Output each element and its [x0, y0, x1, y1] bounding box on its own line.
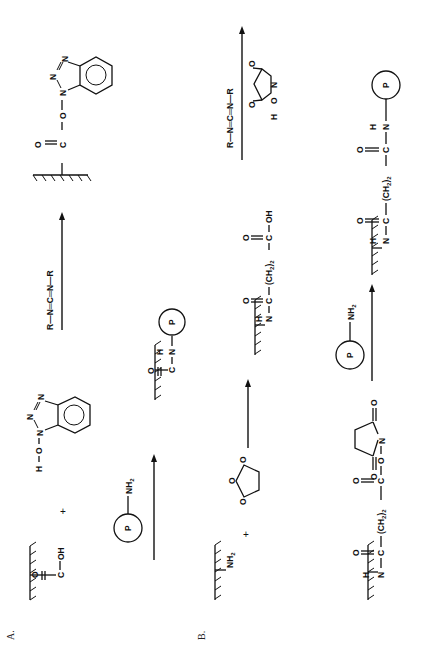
atom-o1: O [351, 549, 361, 556]
reaction-scheme-figure: A. B. C OH O + H [0, 0, 429, 654]
plus-sign: + [60, 506, 66, 517]
surface-hatching-icon [33, 175, 91, 181]
atom-o: O [30, 571, 40, 578]
atom-n2: N [25, 414, 35, 420]
group-ch2-2: (CH2)2 [264, 260, 275, 285]
reaction-scheme-svg: A. B. C OH O + H [0, 0, 429, 654]
arrowhead-icon [151, 454, 157, 462]
surface-carboxylic-acid: C OH O [30, 542, 66, 600]
atom-c: C [167, 367, 177, 373]
surface-hatching-icon [368, 541, 374, 599]
atom-o-left: O [247, 101, 257, 108]
atom-c: C [56, 572, 66, 578]
atom-n2: N [48, 74, 58, 80]
succinic-anhydride: O O O [227, 456, 259, 505]
atom-c2: C [264, 235, 274, 241]
atom-o1: O [355, 217, 365, 224]
panel-a: C OH O + H O N N N P [25, 56, 185, 600]
protein-p: P [381, 82, 391, 88]
atom-o: O [269, 97, 279, 104]
atom-h: H [155, 349, 165, 355]
atom-h: H [34, 466, 44, 472]
protein-amine-reagent: P NH2 [114, 478, 142, 542]
panel-label-b: B. [196, 631, 207, 640]
atom-c1: C [264, 298, 274, 304]
group-ch2-2: (CH2)2 [381, 176, 392, 201]
hobt-molecule: H O N N N [25, 394, 90, 472]
atom-o-link: O [58, 112, 68, 119]
atom-c1: C [376, 550, 386, 556]
benzene-ring-icon [80, 57, 112, 94]
n-hydroxysuccinimide: O O N O H [247, 60, 279, 120]
atom-n: N [264, 316, 274, 322]
atom-o-ring: O [227, 477, 237, 484]
atom-h: H [361, 572, 371, 578]
protein-p: P [167, 319, 177, 325]
arrowhead-icon [59, 212, 65, 220]
atom-n2: N [381, 124, 391, 130]
atom-h2: H [368, 124, 378, 130]
atom-o-right: O [247, 60, 257, 67]
protein-amine-reagent-b: P NH2 [336, 304, 364, 369]
surface-hatching-icon [372, 216, 378, 274]
product-amide-a: C O H N P [146, 309, 185, 400]
surface-hatching-icon [30, 542, 36, 600]
amine-nh2: NH2 [225, 552, 236, 568]
atom-o2: O [351, 477, 361, 484]
atom-o-right: O [369, 399, 379, 406]
atom-n-ring: N [377, 438, 387, 444]
atom-o2: O [241, 234, 251, 241]
amine-nh2: NH2 [124, 478, 135, 494]
protein-p: P [123, 525, 133, 531]
atom-h: H [368, 238, 378, 244]
atom-o1: O [241, 297, 251, 304]
atom-n3: N [36, 394, 46, 400]
nhs-ester-intermediate: H N C O (CH2)2 C O O N O O [351, 399, 387, 600]
atom-o2: O [355, 146, 365, 153]
atom-o-left: O [238, 498, 248, 505]
atom-n: N [381, 238, 391, 244]
atom-n: N [167, 349, 177, 355]
atom-o-right: O [238, 456, 248, 463]
group-oh: OH [56, 547, 66, 560]
atom-c1: C [381, 218, 391, 224]
carbodiimide-reagent: R—N═C═N—R [225, 88, 235, 148]
atom-n3: N [60, 56, 70, 62]
arrowhead-icon [369, 284, 375, 292]
atom-c2: C [381, 147, 391, 153]
atom-h: H [269, 114, 279, 120]
atom-n: N [376, 572, 386, 578]
atom-n1: N [58, 90, 68, 96]
plus-sign: + [243, 529, 249, 540]
amine-nh2: NH2 [346, 304, 357, 320]
atom-o: O [34, 447, 44, 454]
atom-o: O [146, 367, 156, 374]
surface-succinamic-acid: H N C O (CH2)2 C O OH [241, 210, 275, 355]
atom-h: H [254, 316, 264, 322]
group-ch2-2: (CH2)2 [376, 509, 387, 534]
protein-p: P [345, 352, 355, 358]
carbodiimide-reagent: R—N═C═N—R [45, 270, 55, 330]
atom-c: C [58, 142, 68, 148]
surface-amine: NH2 [215, 541, 236, 600]
benzene-ring-icon [58, 397, 90, 433]
atom-o-link: O [376, 457, 386, 464]
arrowhead-icon [239, 26, 245, 34]
product-protein-conjugate-b: H N C O (CH2)2 C O H N P [355, 71, 400, 275]
atom-o: O [33, 141, 43, 148]
hobt-active-ester: C O O N N N [33, 56, 112, 181]
panel-b: NH2 + O O O H N [215, 26, 400, 600]
arrowhead-icon [245, 379, 251, 387]
atom-o-left: O [369, 473, 379, 480]
atom-n1: N [35, 430, 45, 436]
group-oh: OH [264, 210, 274, 223]
atom-n: N [269, 82, 279, 88]
panel-label-a: A. [5, 630, 16, 640]
